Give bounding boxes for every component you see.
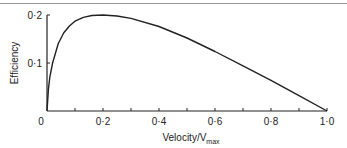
x-tick-label: 0 [38, 116, 44, 127]
x-tick-label: 0·6 [208, 116, 223, 127]
x-axis-label: Velocity/Vmax [162, 132, 220, 145]
x-tick-label: 0·8 [264, 116, 279, 127]
efficiency-chart: 00·20·40·60·81·00·10·2EfficiencyVelocity… [0, 0, 347, 148]
y-tick-label: 0·2 [28, 10, 43, 21]
x-axis-label-subscript: max [206, 138, 220, 145]
y-tick-label: 0·1 [28, 58, 43, 69]
x-tick-label: 0·4 [152, 116, 167, 127]
y-axis-label: Efficiency [9, 42, 20, 85]
x-tick-label: 0·2 [96, 116, 111, 127]
x-tick-label: 1·0 [320, 116, 335, 127]
efficiency-curve [47, 15, 327, 111]
